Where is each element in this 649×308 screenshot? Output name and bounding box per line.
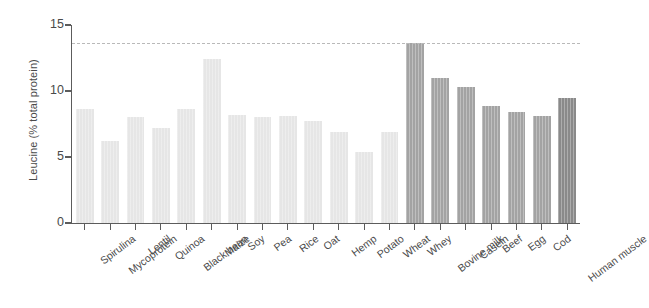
x-tick-label: Pea <box>271 233 293 253</box>
bar <box>203 59 221 223</box>
x-tick-mark <box>491 224 492 230</box>
bar <box>152 128 170 223</box>
bar <box>101 141 119 223</box>
bar <box>355 152 373 223</box>
x-tick-label: Whey <box>425 233 453 258</box>
x-tick-label: Egg <box>525 233 547 253</box>
bar <box>533 116 551 223</box>
x-tick-label: Quinoa <box>173 233 207 262</box>
x-tick-mark <box>465 224 466 230</box>
x-tick-mark <box>516 224 517 230</box>
bar <box>406 43 424 223</box>
plot-area <box>72 25 580 223</box>
x-tick-label: Soy <box>246 233 267 253</box>
bar <box>508 112 526 223</box>
bar <box>330 132 348 223</box>
x-tick-mark <box>389 224 390 230</box>
x-tick-label: Potato <box>375 233 406 260</box>
y-tick-mark <box>65 90 71 91</box>
x-tick-mark <box>364 224 365 230</box>
bar <box>254 117 272 223</box>
x-tick-label: Oat <box>322 233 342 252</box>
y-axis-label: Leucine (% total protein) <box>22 5 44 235</box>
y-tick-mark <box>65 24 71 25</box>
bar <box>228 115 246 223</box>
y-tick-mark <box>65 156 71 157</box>
x-tick-mark <box>338 224 339 230</box>
x-tick-mark <box>186 224 187 230</box>
x-tick-mark <box>160 224 161 230</box>
bar <box>457 87 475 223</box>
bar <box>127 117 145 223</box>
x-tick-mark <box>135 224 136 230</box>
x-tick-mark <box>211 224 212 230</box>
y-tick-label: 5 <box>24 150 64 163</box>
x-tick-label: Rice <box>297 233 320 254</box>
x-tick-mark <box>110 224 111 230</box>
y-tick-label: 10 <box>24 84 64 97</box>
x-tick-mark <box>541 224 542 230</box>
x-tick-mark <box>262 224 263 230</box>
y-tick-label: 0 <box>24 216 64 229</box>
x-tick-mark <box>84 224 85 230</box>
x-tick-label: Hemp <box>349 233 378 259</box>
x-axis-spine <box>71 223 580 224</box>
bar <box>177 109 195 223</box>
x-tick-label: Human muscle <box>586 233 649 284</box>
x-tick-mark <box>414 224 415 230</box>
bar <box>558 98 576 223</box>
reference-line <box>72 43 580 44</box>
x-tick-mark <box>287 224 288 230</box>
x-tick-mark <box>313 224 314 230</box>
bar <box>431 78 449 223</box>
y-tick-mark <box>65 222 71 223</box>
bar <box>381 132 399 223</box>
bar <box>279 116 297 223</box>
bar <box>304 121 322 223</box>
x-tick-mark <box>440 224 441 230</box>
bar <box>482 106 500 223</box>
x-tick-label: Cod <box>551 233 573 253</box>
x-tick-mark <box>567 224 568 230</box>
x-tick-mark <box>237 224 238 230</box>
y-tick-label: 15 <box>24 18 64 31</box>
bar <box>76 109 94 223</box>
